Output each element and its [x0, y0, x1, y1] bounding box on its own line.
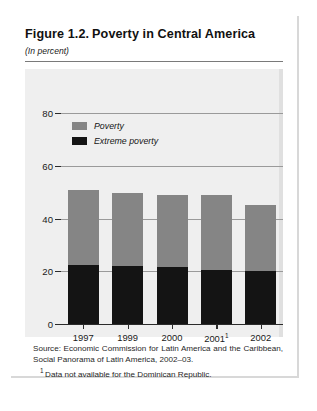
bar-group-2001 — [201, 69, 232, 324]
x-tick-mark-2000 — [172, 325, 173, 329]
chart-plot-area: 020406080 199719992000200112002 Poverty … — [25, 69, 283, 337]
legend-item-poverty: Poverty — [72, 119, 158, 132]
x-tick-label-1997: 1997 — [73, 332, 94, 343]
bar-group-1999 — [112, 69, 143, 324]
header-divider — [25, 61, 283, 62]
bar-group-2002 — [245, 69, 276, 324]
bar-segment-extreme-poverty-2001 — [201, 270, 232, 324]
figure-notes: Source: Economic Commission for Latin Am… — [33, 344, 283, 380]
x-tick-label-1999: 1999 — [117, 332, 138, 343]
x-tick-mark-2002 — [261, 325, 262, 329]
legend-item-extreme-poverty: Extreme poverty — [72, 134, 158, 147]
figure-number: Figure 1.2. — [25, 27, 89, 41]
legend-label-poverty: Poverty — [94, 121, 124, 131]
bars-group — [25, 69, 283, 337]
source-note: Source: Economic Commission for Latin Am… — [33, 344, 283, 365]
x-tick-label-2001: 20011 — [204, 332, 228, 344]
black-square-icon — [72, 137, 87, 145]
figure-subtitle: (In percent) — [25, 46, 69, 56]
figure-title-text: Poverty in Central America — [92, 27, 255, 41]
x-tick-footnote-marker: 1 — [225, 332, 229, 339]
x-tick-label-2002: 2002 — [250, 332, 271, 343]
gray-square-icon — [72, 122, 87, 130]
x-tick-mark-1999 — [128, 325, 129, 329]
bar-segment-extreme-poverty-2000 — [157, 267, 188, 324]
chart-legend: Poverty Extreme poverty — [72, 119, 158, 149]
footnote-text: Data not available for the Dominican Rep… — [45, 370, 211, 379]
figure-title: Figure 1.2.Poverty in Central America — [25, 27, 255, 41]
x-tick-mark-2001 — [216, 325, 217, 329]
footnote-note: 1Data not available for the Dominican Re… — [33, 366, 283, 380]
bar-group-2000 — [157, 69, 188, 324]
bar-segment-extreme-poverty-1997 — [68, 265, 99, 324]
bar-segment-extreme-poverty-1999 — [112, 266, 143, 324]
figure-card: Figure 1.2.Poverty in Central America (I… — [11, 16, 299, 378]
bar-group-1997 — [68, 69, 99, 324]
legend-label-extreme-poverty: Extreme poverty — [94, 136, 158, 146]
footnote-marker: 1 — [40, 367, 44, 374]
x-tick-label-2000: 2000 — [162, 332, 183, 343]
bar-segment-extreme-poverty-2002 — [245, 271, 276, 324]
x-tick-mark-1997 — [83, 325, 84, 329]
